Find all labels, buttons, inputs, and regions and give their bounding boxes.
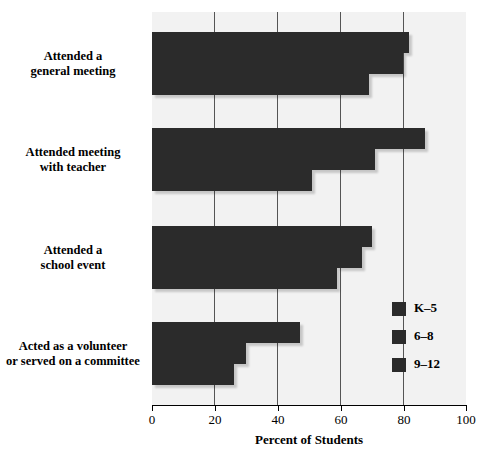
bar-group4-912 xyxy=(152,364,234,385)
category-label-3-line2: school event xyxy=(0,258,146,273)
category-label-1: Attended a general meeting xyxy=(0,49,146,79)
x-tick-100 xyxy=(466,405,467,411)
legend-swatch-68 xyxy=(392,330,406,344)
bar-group1-k5 xyxy=(152,32,409,53)
bar-group4-68 xyxy=(152,343,246,364)
bar-group4-k5 xyxy=(152,322,300,343)
category-label-4-line2: or served on a committee xyxy=(0,354,146,369)
category-label-3: Attended a school event xyxy=(0,243,146,273)
bar-group3-k5 xyxy=(152,226,372,247)
bar-group1-912 xyxy=(152,74,369,95)
legend-label-k5: K–5 xyxy=(414,300,437,316)
bar-chart: Attended a general meeting Attended meet… xyxy=(0,0,501,470)
x-tick-label-20: 20 xyxy=(195,412,235,428)
category-label-1-line1: Attended a xyxy=(0,49,146,64)
x-tick-label-60: 60 xyxy=(321,412,361,428)
category-label-2-line2: with teacher xyxy=(0,160,146,175)
x-tick-0 xyxy=(152,405,153,411)
bar-group3-68 xyxy=(152,247,362,268)
category-label-2-line1: Attended meeting xyxy=(0,145,146,160)
x-tick-label-100: 100 xyxy=(446,412,486,428)
x-tick-80 xyxy=(404,405,405,411)
x-tick-label-0: 0 xyxy=(132,412,172,428)
x-tick-60 xyxy=(341,405,342,411)
x-tick-label-80: 80 xyxy=(384,412,424,428)
bar-group2-912 xyxy=(152,170,312,191)
category-label-4: Acted as a volunteer or served on a comm… xyxy=(0,339,146,369)
x-tick-label-40: 40 xyxy=(258,412,298,428)
bar-group1-68 xyxy=(152,53,403,74)
legend-swatch-912 xyxy=(392,358,406,372)
x-axis-line xyxy=(152,405,467,406)
x-tick-40 xyxy=(278,405,279,411)
bar-group2-68 xyxy=(152,149,375,170)
category-label-3-line1: Attended a xyxy=(0,243,146,258)
legend-swatch-k5 xyxy=(392,302,406,316)
category-label-4-line1: Acted as a volunteer xyxy=(0,339,146,354)
x-axis-title: Percent of Students xyxy=(152,432,466,448)
x-tick-20 xyxy=(215,405,216,411)
bar-group3-912 xyxy=(152,268,337,289)
category-label-2: Attended meeting with teacher xyxy=(0,145,146,175)
bar-group2-k5 xyxy=(152,128,425,149)
category-label-1-line2: general meeting xyxy=(0,64,146,79)
legend-label-912: 9–12 xyxy=(414,356,440,372)
legend-label-68: 6–8 xyxy=(414,328,434,344)
